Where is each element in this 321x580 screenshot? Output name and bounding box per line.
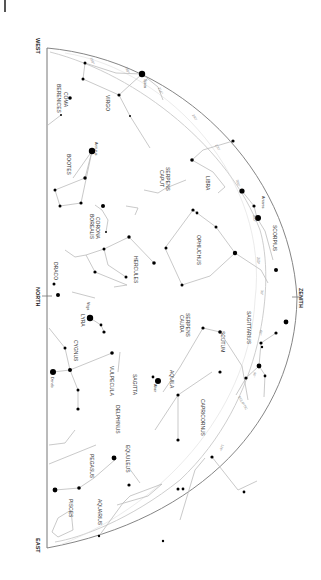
label-aquila: AQUILA [169,370,175,389]
ecliptic-tick: 360° [256,257,260,265]
label-vulpecula: VULPECULA [109,366,115,396]
star-vega [87,315,93,321]
label-libra: LIBRA [205,176,211,191]
label-bootes: BOOTES [66,154,72,176]
label-arcturus: Arcturus [94,142,98,156]
star-spica [139,71,145,77]
label-spica: Spica [143,79,147,88]
label-scutum: SCUTUM [220,331,226,352]
label-lyra: LYRA [80,314,86,327]
label-coma: COMA [63,92,69,108]
label-draco: DRACO [53,262,59,280]
label-deneb: Deneb [50,377,54,388]
ecliptic-tick: 330° [252,215,257,223]
label-pegasus: PEGASUS [89,454,95,479]
label-serpens-caput-2: CAPUT [159,170,165,187]
ecliptic-tick: 30° [260,290,264,296]
label-serpens-cauda-2: CAUDA [179,315,185,333]
label-cygnus: CYGNUS [73,340,79,362]
label-pisces: PISCES [68,499,74,518]
label-altair: Altair [153,384,157,393]
label-scorpius: SCORPIUS [272,225,278,252]
label-capricornus: CAPRICORNUS [200,399,206,437]
label-sagitta: SAGITTA [132,374,138,396]
ecliptic-tick: 210° [157,87,164,96]
star-chart: WEST NORTH EAST ZENITH COMA BERENICES VI… [0,0,321,580]
label-delphinus: DELPHINUS [115,405,121,434]
ecliptic-tick: 240° [191,114,198,123]
ecliptic-tick: 60° [258,330,263,336]
ecliptic-label: ECLIPTIC [237,396,248,412]
label-sagittarius: SAGITTARIUS [246,311,252,345]
star-deneb [50,369,56,375]
label-north: NORTH [35,287,41,307]
constellation-lines [48,63,276,537]
label-virgo: VIRGO [105,95,111,111]
label-hercules: HERCULES [133,256,139,284]
stars [50,62,288,543]
label-antares: Antares [261,196,265,209]
label-ophiuchus: OPHIUCHUS [196,235,202,266]
ecliptic-tick: 90° [252,372,257,379]
label-borealis: BOREALIS [89,214,95,240]
label-west: WEST [35,38,41,55]
label-zenith: ZENITH [298,288,304,308]
ecliptic-tick: 120° [218,444,225,453]
label-berenices: BERENICES [56,84,62,114]
label-east: EAST [35,538,41,553]
label-aquarius: AQUARIUS [97,499,103,526]
ecliptic-line [50,52,266,542]
label-vega: Vega [86,302,90,310]
label-equuleus: EQUULEUS [125,445,131,473]
